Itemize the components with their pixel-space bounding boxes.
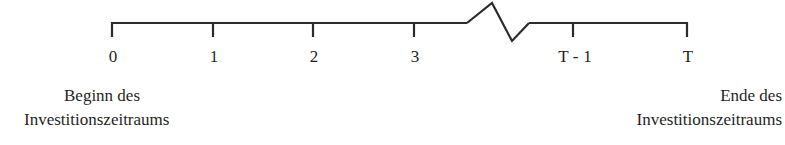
zigzag-break-icon (467, 3, 529, 41)
tick-label-t-minus-1: T - 1 (558, 48, 592, 65)
timeline-figure: 0 1 2 3 T - 1 T Beginn des Investitionsz… (0, 0, 785, 145)
tick-label-t: T (683, 48, 694, 65)
caption-begin-line-1: Beginn des (24, 84, 169, 108)
tick-label-3: 3 (411, 48, 420, 65)
caption-end-line-1: Ende des (637, 84, 782, 108)
caption-end-line-2: Investitionszeitraums (637, 108, 782, 132)
tick-label-1: 1 (210, 48, 219, 65)
caption-end-of-investment-period: Ende des Investitionszeitraums (637, 84, 782, 132)
tick-label-0: 0 (109, 48, 118, 65)
caption-begin-of-investment-period: Beginn des Investitionszeitraums (24, 84, 169, 132)
tick-label-2: 2 (310, 48, 319, 65)
caption-begin-line-2: Investitionszeitraums (24, 108, 169, 132)
